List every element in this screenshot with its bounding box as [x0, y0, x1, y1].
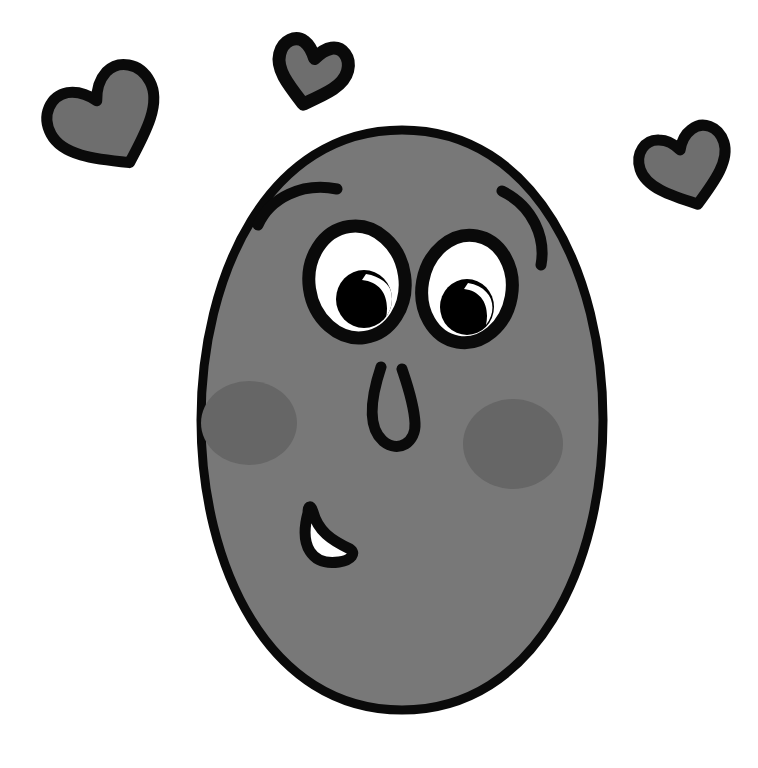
artwork-canvas: Smiling Round Face With Hearts A grey ha… [0, 0, 758, 768]
right-blush [463, 399, 563, 489]
face-group [201, 130, 603, 710]
left-blush [201, 381, 297, 465]
face-illustration [0, 0, 758, 768]
